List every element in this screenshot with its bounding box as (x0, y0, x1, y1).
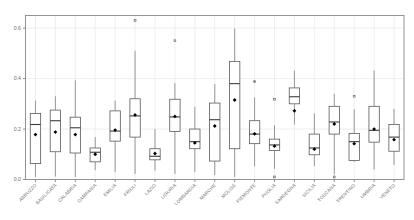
boxplot-chart: 0.00.20.40.6 ABRUZZOBASILICATACALABRIACA… (0, 0, 414, 220)
box-rect (30, 113, 40, 163)
box-rect (349, 134, 359, 161)
box-rect (130, 99, 140, 137)
box-rect (289, 88, 299, 104)
y-tick-label-0: 0.0 (14, 176, 21, 182)
box-rect (110, 111, 120, 141)
box-rect (369, 106, 379, 142)
box-rect (229, 61, 239, 148)
box-rect (210, 103, 220, 161)
boxplot-svg: 0.00.20.40.6 ABRUZZOBASILICATACALABRIACA… (0, 0, 414, 220)
y-tick-label-1: 0.2 (14, 126, 21, 132)
box-rect (190, 129, 200, 149)
y-tick-label-3: 0.6 (14, 25, 21, 31)
box-rect (329, 106, 339, 134)
y-tick-label-2: 0.4 (14, 75, 21, 81)
box-rect (309, 134, 319, 155)
